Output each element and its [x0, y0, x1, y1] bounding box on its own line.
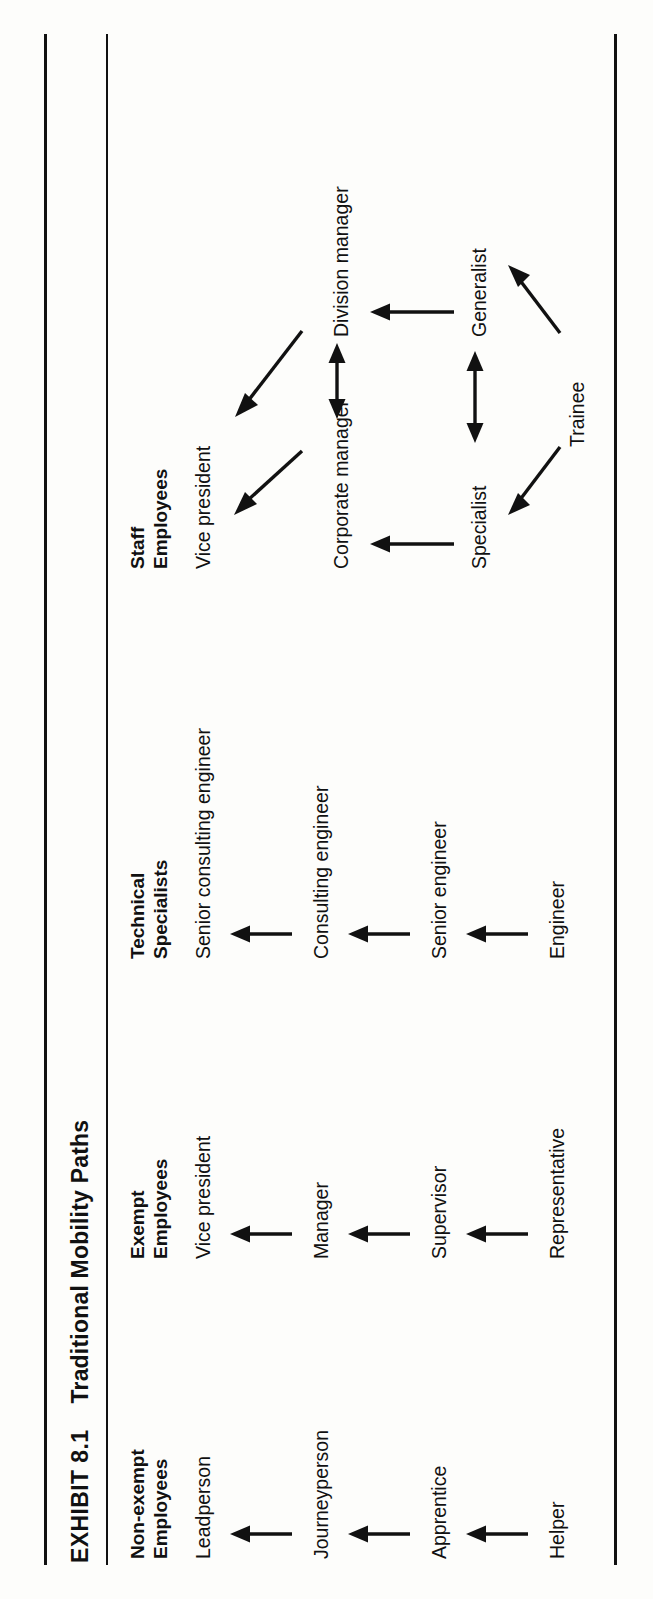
node-senior-engineer: Senior engineer: [428, 821, 451, 959]
node-manager: Manager: [310, 1182, 333, 1259]
column-staff-employees: Staff Employees Vice president Corporate…: [126, 39, 606, 569]
column-technical-specialists: Technical Specialists Senior consulting …: [126, 569, 606, 959]
arrow-senior-engineer-to-consulting-engineer: [348, 923, 410, 945]
column-exempt-employees: Exempt Employees Vice president Manager …: [126, 959, 606, 1259]
bottom-rule: [614, 34, 617, 1565]
node-vice-president-exempt: Vice president: [192, 1136, 215, 1259]
column-header-staff: Staff Employees: [126, 469, 172, 569]
column-header-exempt: Exempt Employees: [126, 1159, 172, 1259]
node-senior-consulting-engineer: Senior consulting engineer: [192, 728, 215, 959]
node-division-manager: Division manager: [330, 186, 353, 337]
node-engineer: Engineer: [546, 881, 569, 959]
node-journeyperson: Journeyperson: [310, 1430, 333, 1559]
arrow-division-manager-to-vice-president: [232, 323, 308, 419]
node-apprentice: Apprentice: [428, 1466, 451, 1559]
top-rule: [44, 34, 47, 1565]
arrow-corporate-manager-division-manager-bidirectional: [326, 343, 348, 419]
node-supervisor: Supervisor: [428, 1166, 451, 1259]
node-trainee: Trainee: [566, 382, 589, 447]
exhibit-page: EXHIBIT 8.1 Traditional Mobility Paths N…: [0, 0, 653, 1599]
node-representative: Representative: [546, 1128, 569, 1259]
column-header-technical: Technical Specialists: [126, 860, 172, 959]
arrow-specialist-to-corporate-manager: [370, 533, 454, 555]
column-header-nonexempt: Non-exempt Employees: [126, 1449, 172, 1559]
arrow-consulting-engineer-to-senior-consulting-engineer: [230, 923, 292, 945]
arrow-corporate-manager-to-vice-president: [232, 443, 308, 517]
arrow-engineer-to-senior-engineer: [466, 923, 528, 945]
arrow-generalist-to-division-manager: [370, 301, 454, 323]
career-path-columns: Non-exempt Employees Leadperson Journeyp…: [126, 39, 606, 1559]
arrow-journeyperson-to-leadperson: [230, 1523, 292, 1545]
title-rule: [106, 34, 108, 1565]
arrow-manager-to-vice-president: [230, 1223, 292, 1245]
arrow-specialist-generalist-bidirectional: [464, 351, 486, 443]
arrow-trainee-to-specialist: [506, 443, 564, 517]
node-corporate-manager: Corporate manager: [330, 400, 353, 569]
arrow-representative-to-supervisor: [466, 1223, 528, 1245]
arrow-helper-to-apprentice: [466, 1523, 528, 1545]
arrow-supervisor-to-manager: [348, 1223, 410, 1245]
node-generalist: Generalist: [468, 248, 491, 337]
node-specialist: Specialist: [468, 486, 491, 569]
node-vice-president-staff: Vice president: [192, 446, 215, 569]
column-nonexempt-employees: Non-exempt Employees Leadperson Journeyp…: [126, 1259, 606, 1559]
node-leadperson: Leadperson: [192, 1456, 215, 1559]
exhibit-figure: EXHIBIT 8.1 Traditional Mobility Paths N…: [0, 0, 653, 1599]
exhibit-title-row: EXHIBIT 8.1 Traditional Mobility Paths: [58, 1120, 102, 1563]
node-helper: Helper: [546, 1502, 569, 1559]
arrow-trainee-to-generalist: [506, 263, 564, 337]
page-title: Traditional Mobility Paths: [67, 1120, 94, 1404]
exhibit-number: EXHIBIT 8.1: [67, 1430, 94, 1564]
node-consulting-engineer: Consulting engineer: [310, 786, 333, 959]
arrow-apprentice-to-journeyperson: [348, 1523, 410, 1545]
